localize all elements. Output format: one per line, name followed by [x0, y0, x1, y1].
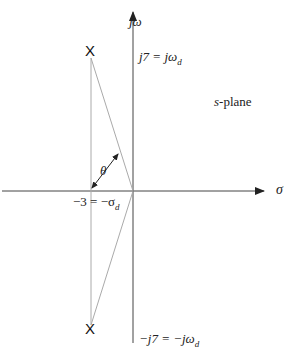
upper-pole-marker: X [85, 42, 95, 59]
lower-pole-marker: X [85, 320, 95, 337]
theta-label: θ [100, 163, 106, 179]
upper-pole-label: j7 = jωd [139, 49, 182, 67]
s-plane-label: s-plane [214, 94, 252, 110]
sigma-axis-label: σ [276, 182, 283, 198]
s-plane-diagram: X X jω σ s-plane j7 = jωd −j7 = −jωd −3 … [0, 0, 296, 363]
jomega-axis-label: jω [129, 14, 142, 30]
real-part-label: −3 = −σd [73, 194, 120, 212]
upper-pole-ray [91, 58, 133, 191]
lower-pole-label: −j7 = −jωd [139, 331, 199, 349]
